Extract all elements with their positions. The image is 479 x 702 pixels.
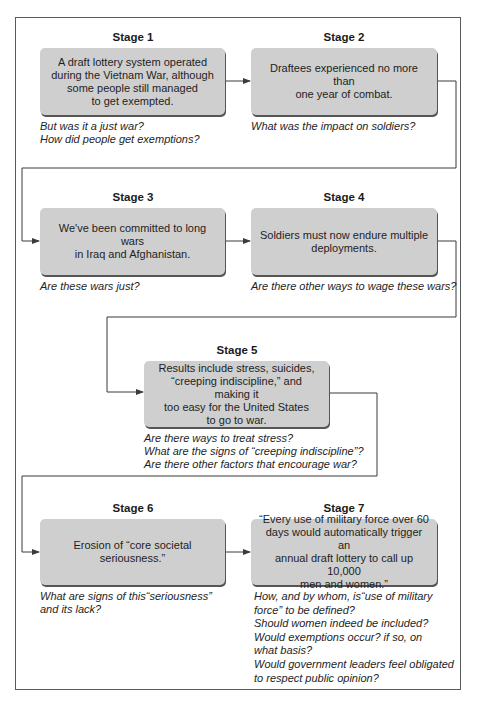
stage-4-box: Soldiers must now endure multiple deploy…	[251, 208, 437, 275]
stage-7-questions: How, and by whom, is“use of military for…	[254, 590, 454, 685]
stage-4-questions: Are there other ways to wage these wars?	[251, 280, 456, 293]
stage-3-box: We've been committed to long wars in Ira…	[40, 208, 225, 275]
stage-6-questions: What are signs of this“seriousness” and …	[40, 590, 212, 616]
stage-2-title: Stage 2	[251, 31, 437, 43]
stage-5-box: Results include stress, suicides, “creep…	[144, 361, 329, 427]
stage-7-box: “Every use of military force over 60 day…	[251, 519, 437, 585]
stage-5-questions: Are there ways to treat stress? What are…	[144, 432, 364, 471]
stage-2-questions: What was the impact on soldiers?	[251, 120, 415, 133]
stage-1-title: Stage 1	[40, 31, 226, 43]
stage-3-title: Stage 3	[40, 191, 226, 203]
stage-2-box: Draftees experienced no more than one ye…	[251, 48, 437, 115]
stage-6-box: Erosion of “core societal seriousness.”	[40, 519, 225, 585]
stage-3-questions: Are these wars just?	[40, 280, 140, 293]
stage-1-box: A draft lottery system operated during t…	[40, 48, 225, 115]
stage-4-title: Stage 4	[251, 191, 437, 203]
stage-6-title: Stage 6	[40, 502, 226, 514]
stage-1-questions: But was it a just war? How did people ge…	[40, 120, 200, 146]
stage-5-title: Stage 5	[144, 344, 330, 356]
